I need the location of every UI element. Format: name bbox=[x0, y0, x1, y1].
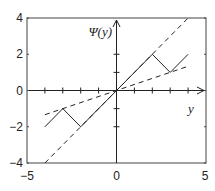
y-axis-label: Ψ(y) bbox=[88, 24, 112, 39]
ytick-label-4: 4 bbox=[16, 11, 23, 25]
ytick-label-0: 0 bbox=[16, 84, 23, 98]
x-axis-label: y bbox=[186, 101, 194, 116]
series-layer bbox=[45, 16, 190, 163]
xtick-label-0: 0 bbox=[113, 169, 120, 183]
xtick-label-neg5: −5 bbox=[20, 169, 34, 183]
ytick-label-2: 2 bbox=[16, 47, 23, 61]
xtick-label-5: 5 bbox=[202, 169, 209, 183]
chart: 4 2 0 −2 −4 −5 0 5 Ψ(y) y bbox=[0, 0, 215, 191]
series-line-1 bbox=[45, 16, 190, 163]
ytick-label-neg2: −2 bbox=[9, 120, 23, 134]
ytick-label-neg4: −4 bbox=[9, 156, 23, 170]
